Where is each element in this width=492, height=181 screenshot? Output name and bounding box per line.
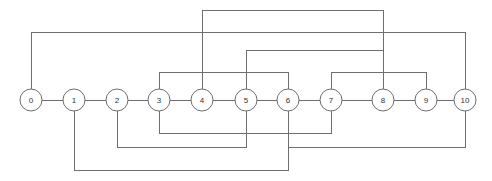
edge-7-9	[331, 72, 426, 89]
node-4[interactable]: 4	[191, 89, 213, 111]
node-6[interactable]: 6	[277, 89, 299, 111]
edge-2-5	[117, 111, 246, 147]
node-0[interactable]: 0	[20, 89, 42, 111]
edge-6-10	[288, 111, 465, 147]
node-5[interactable]: 5	[235, 89, 257, 111]
node-label-4: 4	[200, 96, 205, 105]
edge-3-7	[159, 111, 331, 133]
graph-canvas: 012345678910	[0, 0, 492, 181]
node-1[interactable]: 1	[63, 89, 85, 111]
node-label-1: 1	[72, 96, 77, 105]
node-label-8: 8	[381, 96, 386, 105]
node-label-10: 10	[461, 96, 470, 105]
node-7[interactable]: 7	[320, 89, 342, 111]
node-label-3: 3	[157, 96, 162, 105]
node-label-2: 2	[115, 96, 120, 105]
node-8[interactable]: 8	[372, 89, 394, 111]
node-3[interactable]: 3	[148, 89, 170, 111]
edge-1-6	[74, 111, 288, 170]
node-label-0: 0	[29, 96, 34, 105]
node-2[interactable]: 2	[106, 89, 128, 111]
node-label-9: 9	[424, 96, 429, 105]
edge-0-10	[31, 32, 465, 89]
node-label-7: 7	[329, 96, 334, 105]
node-label-6: 6	[286, 96, 291, 105]
node-10[interactable]: 10	[454, 89, 476, 111]
edge-3-6	[159, 72, 288, 89]
graph-diagram: 012345678910	[0, 0, 492, 181]
edge-5-8	[246, 50, 383, 89]
node-label-5: 5	[244, 96, 249, 105]
node-9[interactable]: 9	[415, 89, 437, 111]
